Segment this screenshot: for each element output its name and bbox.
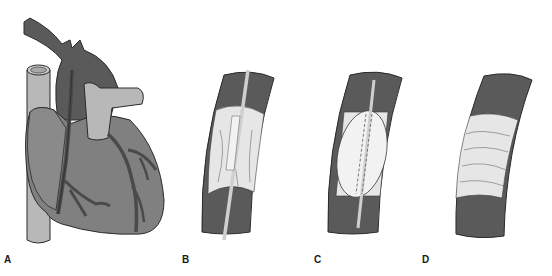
panel-b-label: B [182, 254, 189, 265]
panel-d-label: D [422, 254, 429, 265]
treated-artery [420, 0, 552, 276]
panel-b-catheter: B [180, 0, 310, 276]
panel-c-balloon: C [300, 0, 430, 276]
panel-c-label: C [314, 254, 321, 265]
panel-a-heart: A [0, 0, 200, 276]
figure: A B C D [0, 0, 552, 276]
panel-a-label: A [4, 254, 11, 265]
balloon-inflated-artery [300, 0, 430, 276]
stenosed-artery-with-catheter [180, 0, 310, 276]
panel-d-treated: D [420, 0, 552, 276]
heart-illustration [0, 0, 200, 276]
